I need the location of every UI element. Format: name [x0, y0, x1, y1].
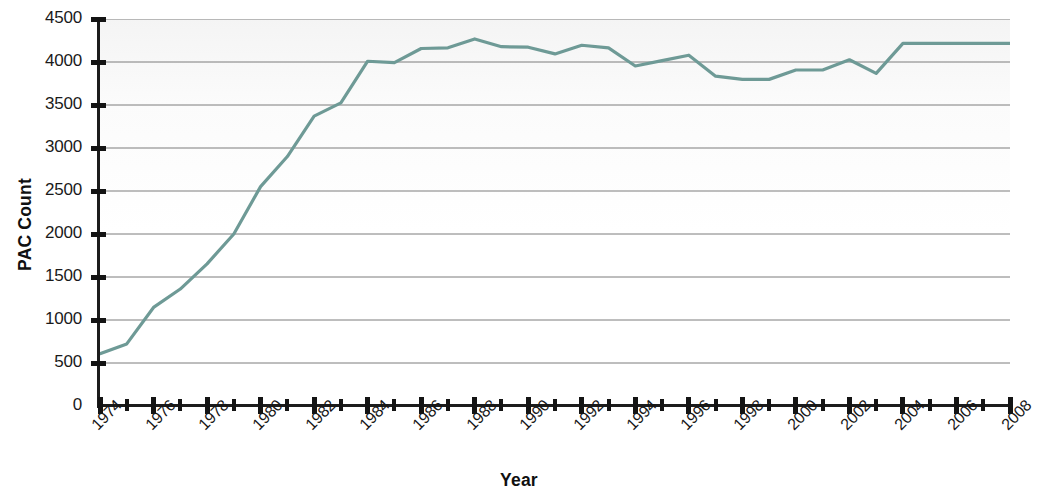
pac-count-line-chart: 050010001500200025003000350040004500 197… [0, 0, 1038, 492]
y-axis-tick [91, 17, 106, 22]
y-axis-line [97, 17, 100, 408]
y-axis-tick [91, 275, 106, 280]
x-axis-minor-tick [232, 399, 236, 411]
y-axis-tick [91, 189, 106, 194]
x-axis-minor-tick [125, 399, 129, 411]
y-axis-tick-label: 1000 [30, 309, 82, 329]
y-axis-tick-label: 0 [30, 395, 82, 415]
x-axis-minor-tick [660, 399, 664, 411]
y-axis-tick [91, 60, 106, 65]
x-axis-minor-tick [339, 399, 343, 411]
x-axis-minor-tick [446, 399, 450, 411]
x-axis-minor-tick [874, 399, 878, 411]
y-axis-tick-label: 3000 [30, 137, 82, 157]
x-axis-minor-tick [928, 399, 932, 411]
y-axis-tick [91, 232, 106, 237]
y-axis-tick-label: 4000 [30, 51, 82, 71]
plot-area [100, 19, 1010, 406]
y-axis-tick [91, 103, 106, 108]
y-axis-tick-label: 2500 [30, 180, 82, 200]
y-axis-tick-label: 500 [30, 352, 82, 372]
y-axis-tick-label: 3500 [30, 94, 82, 114]
x-axis-minor-tick [767, 399, 771, 411]
plot-svg [100, 19, 1010, 406]
x-axis-title: Year [0, 470, 1038, 491]
y-axis-tick [91, 318, 106, 323]
y-axis-tick [91, 361, 106, 366]
y-axis-tick-label: 4500 [30, 8, 82, 28]
y-axis-tick-label: 1500 [30, 266, 82, 286]
x-axis-minor-tick [981, 399, 985, 411]
x-axis-minor-tick [553, 399, 557, 411]
y-axis-title: PAC Count [15, 155, 36, 295]
y-axis-tick-label: 2000 [30, 223, 82, 243]
y-axis-tick [91, 146, 106, 151]
data-series-line [100, 39, 1010, 354]
